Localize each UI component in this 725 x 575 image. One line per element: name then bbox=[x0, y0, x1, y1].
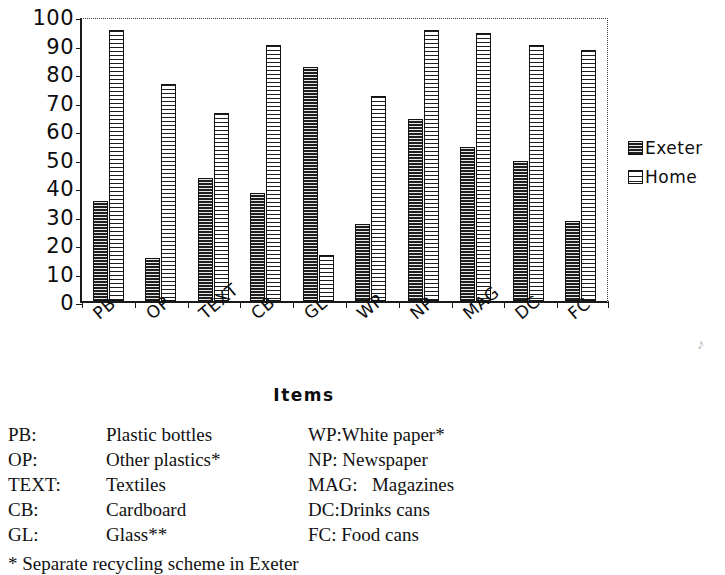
x-axis-title: Items bbox=[0, 385, 608, 405]
key-term: Cardboard bbox=[106, 499, 186, 521]
x-tickmark bbox=[608, 301, 609, 308]
key-row: GL:Glass**FC: Food cans bbox=[8, 524, 648, 549]
bar-group bbox=[292, 19, 345, 301]
bar-exeter-wp bbox=[355, 224, 370, 301]
key-entry-left: GL:Glass** bbox=[8, 524, 308, 546]
key-entry-right: WP:White paper* bbox=[308, 424, 648, 446]
key-term: Plastic bottles bbox=[106, 424, 212, 446]
bar-group bbox=[135, 19, 188, 301]
bar-group bbox=[450, 19, 503, 301]
legend-entry-home: Home bbox=[628, 167, 703, 187]
key-term: Newspaper bbox=[338, 449, 428, 471]
chart-legend: Exeter Home bbox=[628, 138, 703, 187]
bar-home-np bbox=[424, 30, 439, 301]
key-entry-left: OP:Other plastics* bbox=[8, 449, 308, 471]
bar-group bbox=[240, 19, 293, 301]
y-tick-label: 80 bbox=[46, 65, 74, 86]
legend-label-home: Home bbox=[645, 167, 697, 187]
y-tick-label: 50 bbox=[46, 150, 74, 171]
key-term: Textiles bbox=[106, 474, 166, 496]
bar-group bbox=[397, 19, 450, 301]
scan-artifact-mark: ♪ bbox=[697, 336, 711, 352]
key-abbr: GL: bbox=[8, 524, 106, 546]
key-abbr: TEXT: bbox=[8, 474, 106, 496]
y-tickmark bbox=[76, 162, 82, 163]
y-tickmark bbox=[76, 247, 82, 248]
y-tick-label: 70 bbox=[46, 93, 74, 114]
y-tickmark bbox=[76, 48, 82, 49]
bar-home-pb bbox=[109, 30, 124, 301]
bar-exeter-mag bbox=[460, 147, 475, 301]
bar-exeter-pb bbox=[93, 201, 108, 301]
bar-exeter-np bbox=[408, 119, 423, 301]
bar-exeter-dc bbox=[513, 161, 528, 301]
bar-home-wp bbox=[371, 96, 386, 301]
y-tickmark bbox=[76, 133, 82, 134]
key-entry-left: PB:Plastic bottles bbox=[8, 424, 308, 446]
legend-entry-exeter: Exeter bbox=[628, 138, 703, 158]
key-abbr: MAG: bbox=[308, 474, 358, 496]
key-term: Drinks cans bbox=[340, 499, 430, 521]
y-tickmark bbox=[76, 76, 82, 77]
bar-home-text bbox=[214, 113, 229, 301]
y-tick-label: 90 bbox=[46, 36, 74, 57]
key-row: CB:CardboardDC:Drinks cans bbox=[8, 499, 648, 524]
abbreviation-key: PB:Plastic bottlesWP:White paper*OP:Othe… bbox=[8, 424, 648, 549]
y-tick-label: 60 bbox=[46, 122, 74, 143]
bar-exeter-fc bbox=[565, 221, 580, 301]
y-tick-label: 40 bbox=[46, 179, 74, 200]
key-entry-right: NP: Newspaper bbox=[308, 449, 648, 471]
key-term: Magazines bbox=[358, 474, 455, 496]
bar-home-gl bbox=[319, 255, 334, 301]
bar-home-dc bbox=[529, 45, 544, 302]
bar-home-op bbox=[161, 84, 176, 301]
y-tick-label: 100 bbox=[32, 8, 74, 29]
key-row: TEXT:TextilesMAG: Magazines bbox=[8, 474, 648, 499]
key-term: Glass** bbox=[106, 524, 167, 546]
bar-chart-figure: 0102030405060708090100 PBOPTEXTCBGLWPNPM… bbox=[0, 0, 725, 415]
y-tickmark bbox=[76, 219, 82, 220]
bar-group bbox=[82, 19, 135, 301]
y-tickmark bbox=[76, 276, 82, 277]
bar-home-fc bbox=[581, 50, 596, 301]
y-tick-label: 10 bbox=[46, 264, 74, 285]
y-axis-tick-labels: 0102030405060708090100 bbox=[8, 8, 74, 300]
bar-group bbox=[502, 19, 555, 301]
y-tick-label: 0 bbox=[60, 293, 74, 314]
y-tickmark bbox=[76, 19, 82, 20]
bars-layer bbox=[82, 19, 607, 301]
bar-home-mag bbox=[476, 33, 491, 301]
key-entry-right: MAG: Magazines bbox=[308, 474, 648, 496]
key-entry-right: FC: Food cans bbox=[308, 524, 648, 546]
key-term: Other plastics* bbox=[106, 449, 221, 471]
key-abbr: CB: bbox=[8, 499, 106, 521]
key-entry-right: DC:Drinks cans bbox=[308, 499, 648, 521]
key-abbr: WP: bbox=[308, 424, 342, 446]
bar-exeter-cb bbox=[250, 193, 265, 301]
bar-group bbox=[345, 19, 398, 301]
bar-home-cb bbox=[266, 45, 281, 302]
y-tickmark bbox=[76, 190, 82, 191]
x-axis-tick-labels: PBOPTEXTCBGLWPNPMAGDCFC bbox=[80, 306, 608, 366]
key-abbr: FC: bbox=[308, 524, 337, 546]
key-entry-left: TEXT:Textiles bbox=[8, 474, 308, 496]
key-abbr: NP: bbox=[308, 449, 338, 471]
key-term: Food cans bbox=[337, 524, 419, 546]
plot-area bbox=[80, 18, 608, 303]
home-swatch-icon bbox=[628, 170, 643, 184]
key-abbr: DC: bbox=[308, 499, 340, 521]
key-row: OP:Other plastics*NP: Newspaper bbox=[8, 449, 648, 474]
bar-exeter-gl bbox=[303, 67, 318, 301]
y-tickmark bbox=[76, 105, 82, 106]
key-abbr: PB: bbox=[8, 424, 106, 446]
key-row: PB:Plastic bottlesWP:White paper* bbox=[8, 424, 648, 449]
key-entry-left: CB:Cardboard bbox=[8, 499, 308, 521]
key-term: White paper* bbox=[342, 424, 445, 446]
bar-exeter-text bbox=[198, 178, 213, 301]
exeter-swatch-icon bbox=[628, 141, 643, 155]
y-tick-label: 30 bbox=[46, 207, 74, 228]
bar-group bbox=[555, 19, 608, 301]
y-tick-label: 20 bbox=[46, 236, 74, 257]
legend-label-exeter: Exeter bbox=[645, 138, 703, 158]
key-footnote: * Separate recycling scheme in Exeter bbox=[8, 553, 648, 575]
